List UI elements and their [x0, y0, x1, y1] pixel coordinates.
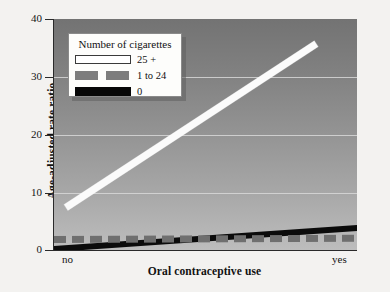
y-tick-mark-40	[45, 19, 53, 20]
legend-swatch-25-plus-icon	[75, 55, 131, 64]
y-tick-mark-10	[45, 193, 53, 194]
y-tick-label-30: 30	[2, 70, 42, 82]
gridline-10	[54, 193, 357, 194]
y-tick-label-20: 20	[2, 128, 42, 140]
legend-item-25-plus: 25 +	[75, 52, 175, 67]
y-tick-label-40: 40	[2, 12, 42, 24]
chart-figure: Age-adjusted rate ratio 40 30 20 10 0 no…	[0, 0, 390, 292]
x-tick-label-no: no	[62, 253, 73, 265]
gridline-20	[54, 135, 357, 136]
y-tick-mark-0	[45, 250, 53, 251]
y-tick-mark-30	[45, 77, 53, 78]
series-line-1-to-24	[54, 235, 357, 243]
legend-title: Number of cigarettes	[75, 37, 175, 51]
y-tick-label-10: 10	[2, 186, 42, 198]
y-tick-label-0: 0	[2, 243, 42, 255]
chart-legend: Number of cigarettes 25 + 1 to 24 0	[68, 33, 182, 97]
y-tick-mark-20	[45, 135, 53, 136]
x-axis-title: Oral contraceptive use	[53, 265, 356, 277]
legend-swatch-0-icon	[75, 87, 131, 96]
legend-label-1-to-24: 1 to 24	[137, 70, 166, 81]
legend-label-25-plus: 25 +	[137, 54, 156, 65]
legend-swatch-1-to-24-icon	[75, 71, 131, 80]
legend-item-0: 0	[75, 84, 175, 99]
y-axis-line	[53, 19, 54, 251]
legend-label-0: 0	[137, 86, 142, 97]
legend-item-1-to-24: 1 to 24	[75, 68, 175, 83]
x-axis-line	[53, 250, 357, 251]
x-tick-label-yes: yes	[332, 253, 347, 265]
